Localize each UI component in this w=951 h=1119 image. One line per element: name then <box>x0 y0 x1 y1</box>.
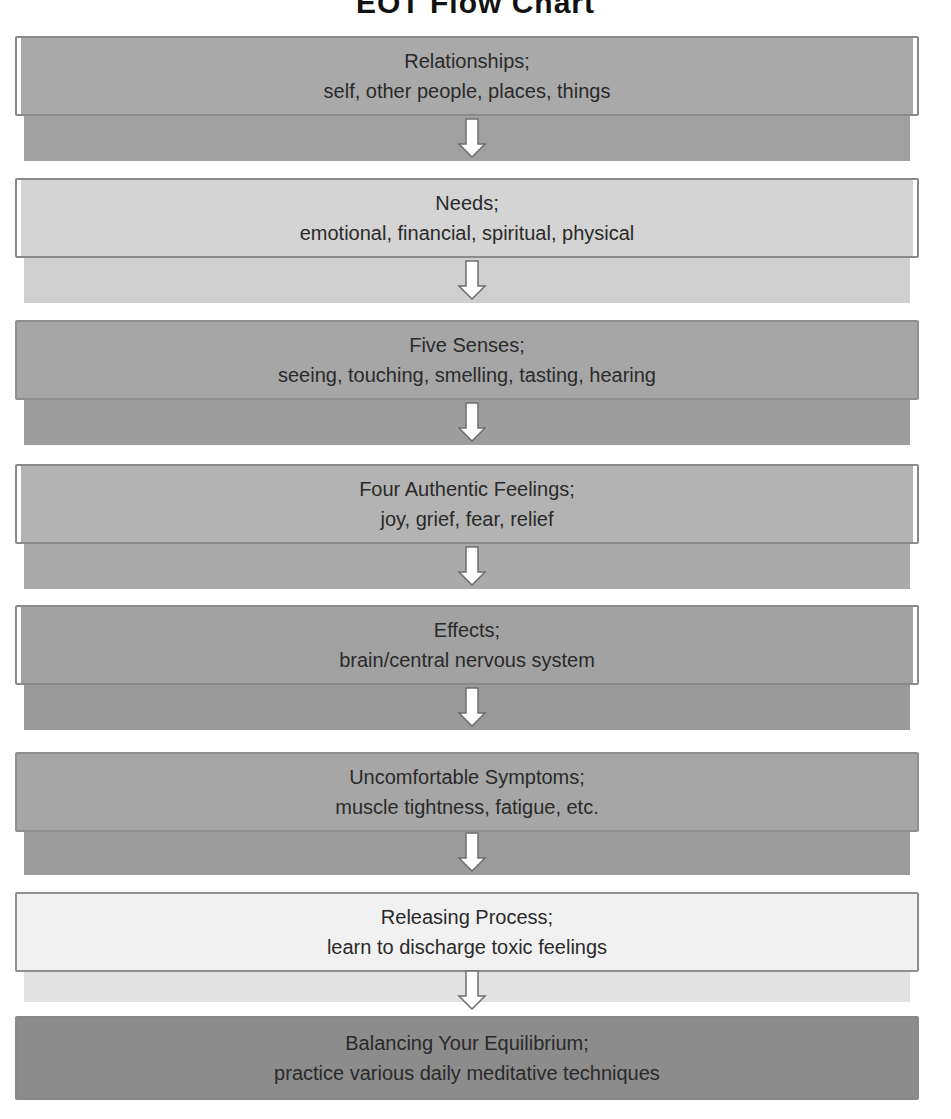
step-detail: brain/central nervous system <box>339 645 595 675</box>
step-detail: joy, grief, fear, relief <box>380 504 553 534</box>
step-heading: Balancing Your Equilibrium; <box>345 1028 589 1058</box>
down-arrow-icon <box>457 118 487 158</box>
step-heading: Effects; <box>434 615 500 645</box>
chart-title: EOT Flow Chart <box>0 0 951 20</box>
step-heading: Relationships; <box>404 46 530 76</box>
down-arrow-icon <box>457 260 487 300</box>
step-detail: self, other people, places, things <box>324 76 611 106</box>
step-heading: Uncomfortable Symptoms; <box>349 762 585 792</box>
down-arrow-icon <box>457 402 487 442</box>
step-box: Effects; brain/central nervous system <box>15 605 919 685</box>
step-detail: learn to discharge toxic feelings <box>327 932 607 962</box>
down-arrow-icon <box>457 970 487 1010</box>
step-heading: Releasing Process; <box>381 902 553 932</box>
step-detail: emotional, financial, spiritual, physica… <box>300 218 635 248</box>
step-heading: Four Authentic Feelings; <box>359 474 575 504</box>
step-box: Needs; emotional, financial, spiritual, … <box>15 178 919 258</box>
step-box: Uncomfortable Symptoms; muscle tightness… <box>15 752 919 832</box>
step-box: Five Senses; seeing, touching, smelling,… <box>15 320 919 400</box>
step-heading: Five Senses; <box>409 330 525 360</box>
down-arrow-icon <box>457 832 487 872</box>
down-arrow-icon <box>457 546 487 586</box>
step-heading: Needs; <box>435 188 498 218</box>
step-detail: practice various daily meditative techni… <box>274 1058 660 1088</box>
down-arrow-icon <box>457 687 487 727</box>
step-box: Releasing Process; learn to discharge to… <box>15 892 919 972</box>
step-box: Relationships; self, other people, place… <box>15 36 919 116</box>
step-detail: muscle tightness, fatigue, etc. <box>335 792 598 822</box>
step-box: Balancing Your Equilibrium; practice var… <box>15 1016 919 1100</box>
step-box: Four Authentic Feelings; joy, grief, fea… <box>15 464 919 544</box>
step-detail: seeing, touching, smelling, tasting, hea… <box>278 360 656 390</box>
